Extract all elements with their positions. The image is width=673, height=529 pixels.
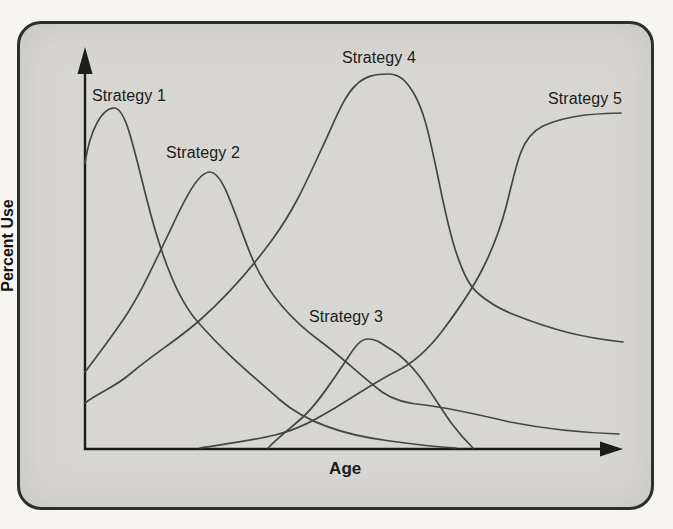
x-axis-title: Age [329, 460, 361, 478]
strategy-3-label: Strategy 3 [309, 308, 383, 326]
y-axis-arrowhead-icon [78, 47, 93, 74]
strategy-2-curve [85, 172, 619, 434]
x-axis-arrowhead-icon [600, 442, 623, 457]
overlapping-waves-chart [0, 0, 673, 529]
strategy-3-curve [268, 339, 473, 448]
strategy-1-label: Strategy 1 [92, 87, 166, 105]
strategy-1-curve [85, 108, 456, 448]
strategy-5-label: Strategy 5 [548, 90, 622, 108]
strategy-4-label: Strategy 4 [342, 49, 416, 67]
strategy-2-label: Strategy 2 [166, 144, 240, 162]
axes-lines [85, 70, 604, 449]
y-axis-title: Percent Use [0, 188, 19, 303]
